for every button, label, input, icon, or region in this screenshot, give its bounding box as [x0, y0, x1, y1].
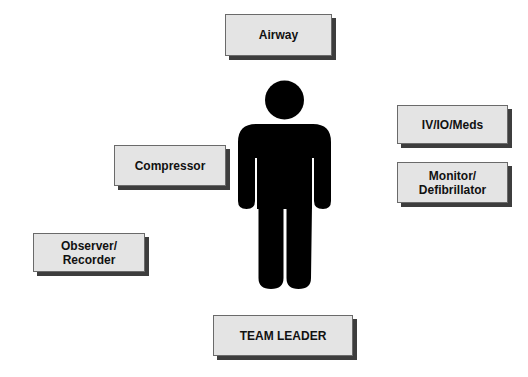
role-label-compressor: Compressor: [135, 159, 206, 173]
role-box-compressor: Compressor: [114, 145, 226, 186]
role-label-monitor-defibrillator: Monitor/ Defibrillator: [419, 169, 486, 197]
role-box-iv-io-meds: IV/IO/Meds: [397, 105, 508, 144]
role-label-team-leader: TEAM LEADER: [240, 329, 327, 343]
role-box-observer-recorder: Observer/ Recorder: [33, 233, 145, 272]
role-label-observer-recorder: Observer/ Recorder: [61, 239, 117, 267]
role-label-iv-io-meds: IV/IO/Meds: [422, 118, 483, 132]
role-box-monitor-defibrillator: Monitor/ Defibrillator: [397, 162, 508, 203]
role-box-team-leader: TEAM LEADER: [213, 315, 353, 356]
role-box-airway: Airway: [225, 14, 332, 56]
role-label-airway: Airway: [259, 28, 298, 42]
